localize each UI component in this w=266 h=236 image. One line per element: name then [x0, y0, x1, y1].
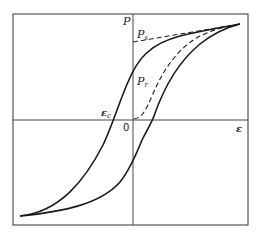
plot-frame — [13, 14, 248, 225]
hysteresis-diagram — [0, 0, 266, 236]
y-axis-label: P — [123, 16, 130, 27]
remanent-sub: r — [144, 81, 147, 89]
coercive-field-label: εc — [101, 108, 111, 120]
coercive-sub: c — [107, 112, 111, 120]
origin-label: 0 — [123, 123, 129, 133]
saturation-polarization-label: Ps — [137, 29, 148, 42]
saturation-extrapolation-line — [133, 24, 240, 42]
saturation-sub: s — [144, 34, 148, 42]
remanent-polarization-label: Pr — [137, 76, 148, 89]
initial-polarization-curve — [134, 24, 240, 119]
x-axis-label: ε — [236, 124, 242, 134]
